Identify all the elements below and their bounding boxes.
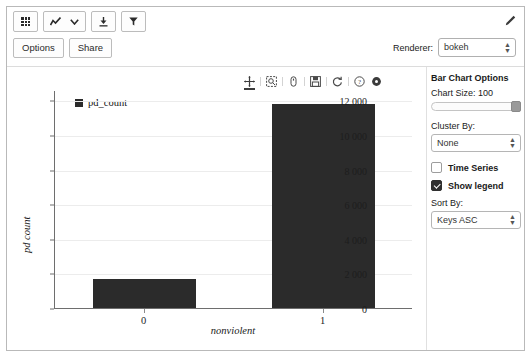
y-axis-label: pd count (21, 217, 32, 253)
select-arrows-icon: ▲▼ (509, 214, 516, 226)
show-legend-label: Show legend (448, 181, 504, 191)
sort-by-value: Keys ASC (437, 215, 478, 225)
legend-label: pd_count (88, 97, 127, 108)
display-toolbar (7, 7, 524, 36)
x-axis-label: nonviolent (54, 325, 412, 336)
select-arrows-icon: ▲▼ (504, 42, 511, 54)
slider-track (431, 102, 521, 111)
legend-swatch (75, 99, 83, 107)
x-tick-mark (144, 309, 145, 313)
bar[interactable] (93, 279, 197, 308)
x-tick-label: 0 (141, 315, 146, 326)
pencil-icon[interactable] (504, 13, 516, 25)
show-legend-checkbox-row[interactable]: Show legend (431, 180, 523, 191)
y-tick-label: 12 000 (340, 96, 368, 107)
table-icon (21, 17, 30, 26)
options-button[interactable]: Options (13, 38, 64, 58)
renderer-select[interactable]: bokeh ▲▼ (438, 38, 516, 57)
renderer-label: Renderer: (393, 43, 433, 53)
download-button[interactable] (91, 11, 116, 32)
funnel-icon (129, 17, 138, 26)
y-tick-mark (50, 239, 54, 240)
slider-thumb[interactable] (511, 101, 521, 112)
cluster-by-select[interactable]: None ▲▼ (431, 134, 521, 152)
y-tick-label: 2 000 (345, 269, 368, 280)
cluster-by-value: None (437, 138, 459, 148)
y-tick-label: 10 000 (340, 130, 368, 141)
filter-button[interactable] (121, 11, 146, 32)
x-tick-label: 1 (320, 315, 325, 326)
chart-type-button[interactable] (43, 11, 86, 32)
options-panel-title: Bar Chart Options (431, 73, 523, 83)
y-tick-mark (50, 135, 54, 136)
y-tick-label: 8 000 (345, 165, 368, 176)
notebook-visualization-panel: Options Share Renderer: bokeh ▲▼ (6, 6, 525, 351)
y-tick-mark (50, 205, 54, 206)
table-view-button[interactable] (13, 11, 38, 32)
sort-by-label: Sort By: (431, 198, 523, 208)
time-series-label: Time Series (448, 163, 498, 173)
download-icon (99, 17, 108, 27)
bar-chart: pd_count nonviolent pd count 02 0004 000… (7, 85, 419, 350)
chart-size-slider[interactable] (431, 101, 521, 112)
y-tick-label: 0 (362, 304, 367, 315)
actions-toolbar: Options Share Renderer: bokeh ▲▼ (7, 36, 524, 66)
show-legend-checkbox[interactable] (431, 180, 442, 191)
chart-legend: pd_count (71, 95, 131, 110)
select-arrows-icon: ▲▼ (509, 137, 516, 149)
chart-body: ? pd_count nonviolent pd count 02 0004 0… (7, 67, 524, 350)
cluster-by-label: Cluster By: (431, 121, 523, 131)
panel-divider (426, 67, 427, 350)
renderer-value: bokeh (444, 42, 469, 52)
x-tick-mark (323, 309, 324, 313)
y-tick-mark (50, 274, 54, 275)
renderer-control: Renderer: bokeh ▲▼ (393, 38, 516, 57)
y-tick-mark (50, 101, 54, 102)
time-series-checkbox-row[interactable]: Time Series (431, 162, 523, 173)
sort-by-select[interactable]: Keys ASC ▲▼ (431, 211, 521, 229)
bar-chart-options-panel: Bar Chart Options Chart Size: 100 Cluste… (431, 73, 523, 239)
chevron-down-icon[interactable] (70, 19, 79, 25)
chart-size-label: Chart Size: 100 (431, 88, 523, 98)
share-button[interactable]: Share (69, 38, 112, 58)
y-tick-label: 4 000 (345, 234, 368, 245)
y-tick-mark (50, 170, 54, 171)
time-series-checkbox[interactable] (431, 162, 442, 173)
y-tick-label: 6 000 (345, 200, 368, 211)
line-chart-icon (50, 17, 61, 26)
y-tick-mark (50, 309, 54, 310)
